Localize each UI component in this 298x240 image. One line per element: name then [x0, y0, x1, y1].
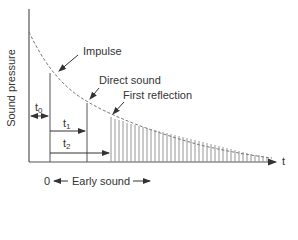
first-reflection-pointer-arrow [113, 102, 124, 114]
y-axis-label: Sound pressure [5, 49, 17, 127]
origin-label: 0 [44, 176, 50, 187]
t1-label: t1 [63, 118, 71, 131]
impulse-label: Impulse [83, 46, 122, 57]
first-reflection-label: First reflection [123, 90, 192, 101]
x-axis-label: t [282, 156, 285, 167]
t0-label: t0 [35, 102, 43, 115]
direct-sound-label: Direct sound [99, 75, 161, 86]
reflection-bars [111, 117, 267, 162]
early-sound-label: Early sound [72, 176, 130, 187]
impulse-pointer-arrow [59, 55, 78, 71]
direct-sound-pointer-arrow [90, 88, 99, 99]
t2-label: t2 [63, 138, 71, 151]
